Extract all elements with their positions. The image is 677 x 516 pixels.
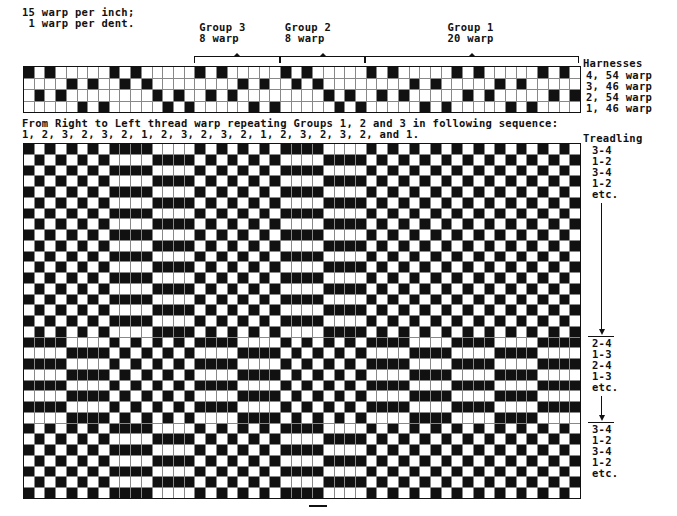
drawdown-cell — [410, 295, 420, 305]
drawdown-cell — [527, 230, 537, 240]
drawdown-cell — [260, 155, 270, 165]
drawdown-cell — [206, 467, 216, 477]
drawdown-cell — [399, 327, 409, 337]
bracket-tip — [234, 53, 240, 56]
drawdown-cell — [517, 456, 527, 466]
treadling-step: etc. — [592, 382, 619, 393]
drawdown-cell — [206, 413, 216, 423]
drawdown-cell — [24, 295, 34, 305]
drawdown-cell — [88, 176, 98, 186]
drawdown-cell — [238, 488, 248, 498]
drawdown-cell — [131, 273, 141, 283]
drawdown-cell — [238, 413, 248, 423]
drawdown-cell — [431, 338, 441, 348]
drawdown-cell — [345, 348, 355, 358]
drawdown-cell — [292, 295, 302, 305]
drawdown-cell — [345, 209, 355, 219]
drawdown-cell — [324, 241, 334, 251]
drawdown-cell — [78, 230, 88, 240]
drawdown-cell — [377, 381, 387, 391]
threading-cell — [442, 67, 452, 78]
drawdown-cell — [549, 456, 559, 466]
drawdown-cell — [474, 230, 484, 240]
drawdown-cell — [388, 467, 398, 477]
drawdown-cell — [131, 434, 141, 444]
threading-cell — [313, 79, 323, 90]
drawdown-cell — [35, 219, 45, 229]
drawdown-cell — [67, 284, 77, 294]
drawdown-cell — [367, 155, 377, 165]
drawdown-cell — [78, 327, 88, 337]
drawdown-cell — [228, 219, 238, 229]
drawdown-cell — [217, 316, 227, 326]
drawdown-cell — [452, 359, 462, 369]
drawdown-cell — [78, 284, 88, 294]
drawdown-cell — [281, 477, 291, 487]
drawdown-cell — [399, 209, 409, 219]
threading-cell — [431, 67, 441, 78]
bracket-tip — [469, 53, 475, 56]
drawdown-cell — [377, 252, 387, 262]
drawdown-cell — [442, 391, 452, 401]
drawdown-cell — [506, 295, 516, 305]
drawdown-cell — [78, 316, 88, 326]
drawdown-cell — [24, 273, 34, 283]
drawdown-cell — [163, 219, 173, 229]
drawdown-cell — [78, 488, 88, 498]
drawdown-cell — [185, 327, 195, 337]
drawdown-cell — [377, 327, 387, 337]
threading-cell — [474, 79, 484, 90]
drawdown-cell — [485, 198, 495, 208]
drawdown-cell — [228, 381, 238, 391]
drawdown-cell — [324, 176, 334, 186]
threading-cell — [249, 79, 259, 90]
drawdown-cell — [527, 370, 537, 380]
drawdown-cell — [131, 241, 141, 251]
drawdown-cell — [292, 424, 302, 434]
drawdown-cell — [35, 477, 45, 487]
drawdown-cell — [45, 488, 55, 498]
drawdown-cell — [185, 295, 195, 305]
drawdown-cell — [560, 370, 570, 380]
drawdown-cell — [24, 230, 34, 240]
drawdown-cell — [538, 348, 548, 358]
drawdown-cell — [260, 295, 270, 305]
drawdown-cell — [517, 370, 527, 380]
drawdown-cell — [120, 241, 130, 251]
drawdown-cell — [24, 391, 34, 401]
drawdown-cell — [377, 241, 387, 251]
drawdown-cell — [88, 241, 98, 251]
drawdown-cell — [324, 252, 334, 262]
threading-cell — [35, 67, 45, 78]
drawdown-cell — [474, 305, 484, 315]
threading-cell — [549, 90, 559, 101]
drawdown-cell — [506, 262, 516, 272]
drawdown-cell — [420, 348, 430, 358]
drawdown-cell — [313, 252, 323, 262]
drawdown-cell — [206, 187, 216, 197]
drawdown-cell — [281, 295, 291, 305]
drawdown-cell — [399, 413, 409, 423]
drawdown-cell — [88, 144, 98, 154]
drawdown-cell — [570, 176, 580, 186]
drawdown-cell — [388, 434, 398, 444]
threading-cell — [399, 102, 409, 113]
drawdown-cell — [538, 295, 548, 305]
drawdown-cell — [185, 413, 195, 423]
drawdown-cell — [185, 166, 195, 176]
drawdown-cell — [228, 241, 238, 251]
drawdown-cell — [302, 176, 312, 186]
drawdown-cell — [431, 424, 441, 434]
drawdown-cell — [185, 477, 195, 487]
treadling-step: etc. — [592, 189, 619, 200]
drawdown-cell — [45, 176, 55, 186]
drawdown-cell — [367, 230, 377, 240]
drawdown-cell — [356, 338, 366, 348]
drawdown-cell — [120, 187, 130, 197]
drawdown-cell — [495, 155, 505, 165]
threading-cell — [56, 79, 66, 90]
drawdown-cell — [570, 230, 580, 240]
drawdown-cell — [517, 230, 527, 240]
threading-cell — [463, 67, 473, 78]
drawdown-cell — [431, 209, 441, 219]
